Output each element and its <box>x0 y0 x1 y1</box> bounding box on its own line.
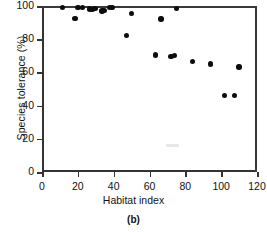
data-point <box>153 52 158 57</box>
x-tick-label: 0 <box>28 180 56 192</box>
x-tick-label: 20 <box>64 180 92 192</box>
data-point <box>124 33 129 38</box>
y-tick-label: 40 <box>22 99 34 111</box>
data-point <box>174 6 179 11</box>
data-point <box>92 6 97 11</box>
x-tick-label: 120 <box>243 180 267 192</box>
y-tick: 20 <box>37 139 42 141</box>
data-point <box>101 8 106 13</box>
scan-artifact <box>166 144 179 147</box>
data-point <box>172 53 177 58</box>
data-point <box>222 93 227 98</box>
x-tick: 0 <box>42 172 44 177</box>
scatter-plot-figure: Species tolerance (%) 020406080100 02040… <box>0 0 267 232</box>
plot-frame-right <box>255 6 257 172</box>
y-tick: 40 <box>37 106 42 108</box>
x-tick: 100 <box>221 172 223 177</box>
y-tick: 100 <box>37 6 42 8</box>
x-tick: 80 <box>185 172 187 177</box>
y-tick-label: 60 <box>22 65 34 77</box>
x-tick-label: 60 <box>136 180 164 192</box>
data-point <box>232 93 237 98</box>
data-point <box>236 64 241 69</box>
y-tick-label: 0 <box>28 165 34 177</box>
y-tick: 60 <box>37 72 42 74</box>
y-axis-line <box>42 6 44 172</box>
data-point <box>129 11 134 16</box>
data-point <box>158 16 163 21</box>
x-tick-label: 100 <box>207 180 235 192</box>
plot-area: 020406080100 020406080100120 <box>42 6 257 172</box>
x-tick: 20 <box>78 172 80 177</box>
data-point <box>72 16 77 21</box>
data-point <box>60 5 65 10</box>
x-tick-label: 40 <box>100 180 128 192</box>
y-tick-label: 100 <box>16 0 34 11</box>
x-tick: 40 <box>114 172 116 177</box>
data-point <box>208 61 213 66</box>
x-axis-title: Habitat index <box>0 194 267 206</box>
x-tick-label: 80 <box>171 180 199 192</box>
y-tick-label: 20 <box>22 132 34 144</box>
data-point <box>109 5 114 10</box>
data-point <box>190 59 195 64</box>
x-tick: 120 <box>257 172 259 177</box>
data-point <box>80 5 85 10</box>
y-tick-label: 80 <box>22 32 34 44</box>
y-tick: 80 <box>37 39 42 41</box>
x-tick: 60 <box>150 172 152 177</box>
panel-caption: (b) <box>0 214 267 225</box>
